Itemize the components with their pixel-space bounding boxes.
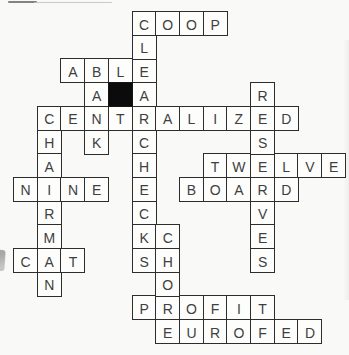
cell-letter: L	[140, 41, 148, 55]
grid-cell: O	[179, 11, 204, 36]
cell-letter: A	[68, 64, 77, 78]
grid-cell: I	[203, 106, 228, 131]
cell-letter: A	[139, 88, 148, 102]
grid-cell: T	[203, 153, 228, 178]
cell-letter: D	[305, 325, 315, 339]
cell-letter: K	[139, 230, 148, 244]
grid-cell: R	[37, 201, 62, 226]
grid-cell: H	[155, 248, 180, 273]
grid-cell: O	[155, 11, 180, 36]
cell-letter: O	[162, 278, 173, 292]
grid-cell: O	[179, 295, 204, 320]
cell-letter: D	[281, 112, 291, 126]
grid-cell: D	[274, 177, 299, 202]
cell-letter: C	[20, 254, 30, 268]
cell-letter: C	[139, 207, 149, 221]
cell-letter: F	[258, 325, 267, 339]
cell-letter: U	[186, 325, 196, 339]
grid-cell: C	[132, 130, 157, 155]
cell-letter: O	[210, 183, 221, 197]
grid-cell: V	[250, 201, 275, 226]
grid-cell: A	[60, 58, 85, 83]
grid-cell: B	[179, 177, 204, 202]
grid-cell: S	[132, 248, 157, 273]
cell-letter: E	[163, 325, 172, 339]
cell-letter: N	[44, 278, 54, 292]
grid-cell: L	[132, 35, 157, 60]
cell-letter: S	[139, 254, 148, 268]
grid-cell: E	[250, 224, 275, 249]
cell-letter: D	[281, 183, 291, 197]
cell-letter: Z	[235, 112, 244, 126]
grid-cell: M	[37, 224, 62, 249]
grid-cell: L	[108, 58, 133, 83]
cell-letter: C	[139, 136, 149, 150]
grid-cell: F	[203, 295, 228, 320]
cell-letter: T	[116, 112, 125, 126]
cell-letter: B	[92, 64, 101, 78]
grid-cell: R	[203, 319, 228, 344]
grid-cell: E	[155, 319, 180, 344]
grid-cell: E	[250, 153, 275, 178]
cell-letter: A	[234, 183, 243, 197]
cell-letter: E	[282, 325, 291, 339]
cell-letter: H	[44, 136, 54, 150]
cell-letter: W	[232, 159, 245, 173]
grid-cell: E	[60, 106, 85, 131]
cell-letter: V	[305, 159, 314, 173]
cell-letter: A	[92, 88, 101, 102]
cell-letter: A	[45, 159, 54, 173]
grid-cell: C	[13, 248, 38, 273]
grid-cell: H	[37, 130, 62, 155]
grid-cell: R	[250, 177, 275, 202]
grid-cell: T	[250, 295, 275, 320]
cell-letter: I	[213, 112, 217, 126]
grid-cell: A	[84, 82, 109, 107]
cell-letter: A	[163, 112, 172, 126]
grid-cell: D	[297, 319, 322, 344]
grid-cell: R	[250, 82, 275, 107]
grid-cell: C	[132, 201, 157, 226]
grid-cell: N	[60, 177, 85, 202]
cell-letter: E	[68, 112, 77, 126]
cell-letter: E	[258, 159, 267, 173]
grid-cell: C	[37, 106, 62, 131]
cell-letter: T	[258, 301, 267, 315]
cell-letter: E	[139, 64, 148, 78]
cell-letter: F	[211, 301, 220, 315]
grid-cell: P	[203, 11, 228, 36]
cell-letter: O	[186, 301, 197, 315]
cell-letter: M	[43, 230, 55, 244]
cell-letter: H	[163, 254, 173, 268]
cell-letter: N	[92, 112, 102, 126]
grid-cell: O	[226, 319, 251, 344]
grid-cell: L	[179, 106, 204, 131]
grid-cell: A	[37, 153, 62, 178]
grid-cell: N	[37, 272, 62, 297]
cell-letter: N	[68, 183, 78, 197]
grid-cell: N	[13, 177, 38, 202]
cell-letter: R	[44, 207, 54, 221]
grid-cell: B	[84, 58, 109, 83]
cell-letter: O	[186, 17, 197, 31]
cell-letter: E	[329, 159, 338, 173]
cell-letter: R	[257, 88, 267, 102]
cell-letter: O	[233, 325, 244, 339]
grid-cell: K	[132, 224, 157, 249]
grid-cell: K	[84, 130, 109, 155]
cell-letter: E	[258, 230, 267, 244]
cell-letter: P	[139, 301, 148, 315]
grid-cell: O	[203, 177, 228, 202]
grid-cell: R	[132, 106, 157, 131]
cell-letter: V	[258, 207, 267, 221]
grid-cell: E	[274, 319, 299, 344]
grid-cell: U	[179, 319, 204, 344]
cell-letter: L	[188, 112, 196, 126]
cell-letter: S	[258, 136, 267, 150]
grid-cell: S	[250, 130, 275, 155]
grid-cell: A	[155, 106, 180, 131]
grid-cell: D	[274, 106, 299, 131]
grid-cell: S	[250, 248, 275, 273]
grid-cell: C	[132, 11, 157, 36]
crossword-grid: COOPABLECENTRALIZEDTWELVENINEBOARDCATPRO…	[0, 0, 349, 355]
